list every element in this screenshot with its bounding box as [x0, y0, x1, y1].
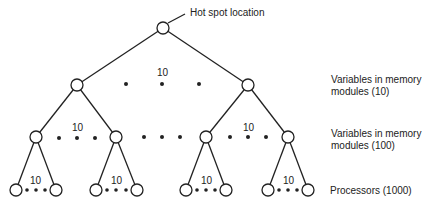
processor-node: [302, 184, 314, 196]
edge: [36, 85, 77, 137]
level-label-line: modules (100): [331, 140, 421, 152]
processor-node: [180, 184, 192, 196]
ellipsis-dot: [124, 188, 128, 192]
level-label-line: modules (10): [331, 86, 421, 98]
ellipsis-dot: [295, 188, 299, 192]
level-label-modules-10: Variables in memory modules (10): [331, 74, 421, 98]
ellipsis-dot: [195, 188, 199, 192]
ellipsis-dot: [246, 135, 250, 139]
fanout-label: 10: [201, 176, 212, 186]
ellipsis-dot: [160, 135, 164, 139]
level-label-processors: Processors (1000): [330, 185, 412, 197]
ellipsis-dot: [213, 188, 217, 192]
level-label-line: Variables in memory: [331, 74, 421, 86]
level2-node: [200, 131, 212, 143]
ellipsis-dot: [75, 136, 79, 140]
fanout-label: 10: [111, 176, 122, 186]
ellipsis-dot: [34, 188, 38, 192]
level-label-line: Variables in memory: [331, 128, 421, 140]
fanout-label: 10: [157, 68, 168, 78]
level2-node: [30, 131, 42, 143]
processor-node: [50, 184, 62, 196]
processor-node: [220, 184, 232, 196]
ellipsis-dot: [228, 135, 232, 139]
processor-node: [90, 184, 102, 196]
level-label-modules-100: Variables in memory modules (100): [331, 128, 421, 152]
ellipsis-dot: [114, 188, 118, 192]
ellipsis-dot: [160, 82, 164, 86]
ellipsis-dot: [105, 188, 109, 192]
edge: [77, 28, 163, 85]
root-node: [157, 22, 169, 34]
ellipsis-dot: [277, 188, 281, 192]
ellipsis-dot: [25, 188, 29, 192]
ellipsis-dot: [93, 136, 97, 140]
level2-node: [282, 131, 294, 143]
edge: [163, 28, 248, 85]
ellipsis-dot: [197, 82, 201, 86]
ellipsis-dot: [142, 135, 146, 139]
edge: [206, 85, 248, 137]
fanout-label: 10: [283, 176, 294, 186]
processor-node: [131, 184, 143, 196]
ellipsis-dot: [204, 188, 208, 192]
ellipsis-dot: [178, 135, 182, 139]
level1-node: [71, 79, 83, 91]
level1-node: [242, 79, 254, 91]
ellipsis-dot: [124, 82, 128, 86]
ellipsis-dot: [264, 135, 268, 139]
fanout-label: 10: [243, 123, 254, 133]
hot-spot-label: Hot spot location: [190, 7, 265, 19]
processor-node: [262, 184, 274, 196]
level2-node: [110, 131, 122, 143]
fanout-label: 10: [72, 123, 83, 133]
fanout-label: 10: [30, 176, 41, 186]
ellipsis-dot: [286, 188, 290, 192]
tree-diagram: [0, 0, 437, 208]
processor-node: [10, 184, 22, 196]
annotation-pointer: [168, 14, 185, 23]
ellipsis-dot: [57, 136, 61, 140]
ellipsis-dot: [43, 188, 47, 192]
